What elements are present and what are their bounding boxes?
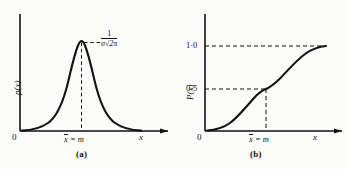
x-axis-arrow-a <box>160 128 168 133</box>
mean-tick-rest-a: = m <box>68 134 84 144</box>
x-axis-arrow-b <box>334 128 342 133</box>
origin-label-a: 0 <box>12 133 17 142</box>
annotation-numerator: 1 <box>101 30 117 39</box>
caption-b: (b) <box>250 150 262 159</box>
panel-pdf: p(x) 0 x = m x 1 σ√2π (a) <box>0 0 173 169</box>
mean-tick-rest-b: = m <box>253 134 269 144</box>
y-axis-label-a: p(x) <box>13 81 22 96</box>
x-axis-label-b: x <box>313 133 317 142</box>
pdf-curve <box>22 41 141 131</box>
peak-height-annotation: 1 σ√2π <box>101 30 117 49</box>
y-tick-half-b: 0·5 <box>186 84 197 93</box>
panel-pdf-svg <box>0 0 173 169</box>
mean-tick-label-a: x = m <box>64 134 84 144</box>
annotation-denominator: σ√2π <box>101 39 117 48</box>
y-tick-one-b: 1·0 <box>186 41 197 50</box>
caption-a: (a) <box>76 150 87 159</box>
x-axis-label-a: x <box>139 133 143 142</box>
figure-container: p(x) 0 x = m x 1 σ√2π (a) <box>0 0 347 169</box>
mean-tick-label-b: x = m <box>249 134 269 144</box>
panel-cdf: P(x) 1·0 0·5 0 x = m x (b) <box>174 0 347 169</box>
origin-label-b: 0 <box>197 133 202 142</box>
